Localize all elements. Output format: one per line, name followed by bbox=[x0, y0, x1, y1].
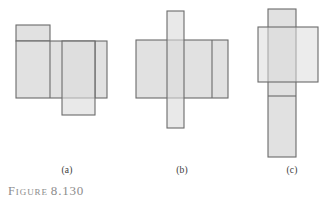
panel-label-b: (b) bbox=[162, 165, 202, 175]
figure-caption-word: Figure bbox=[8, 184, 48, 198]
panel-b-group bbox=[136, 11, 228, 128]
panel-a-group bbox=[16, 25, 107, 115]
panel-a-small-top-rectangle bbox=[16, 25, 50, 41]
panel-c-wide-horizontal-rectangle bbox=[258, 27, 318, 82]
panel-b-tall-vertical-strip bbox=[167, 11, 184, 128]
figure-illustration: (a) (b) (c) Figure8.130 bbox=[0, 0, 330, 204]
figure-caption-number: 8.130 bbox=[48, 183, 84, 198]
panel-a-overlapping-vertical-rectangle bbox=[62, 41, 95, 115]
panel-label-a: (a) bbox=[47, 165, 87, 175]
figure-caption: Figure8.130 bbox=[8, 183, 84, 199]
panel-c-group bbox=[258, 9, 318, 157]
panel-label-c: (c) bbox=[272, 165, 312, 175]
